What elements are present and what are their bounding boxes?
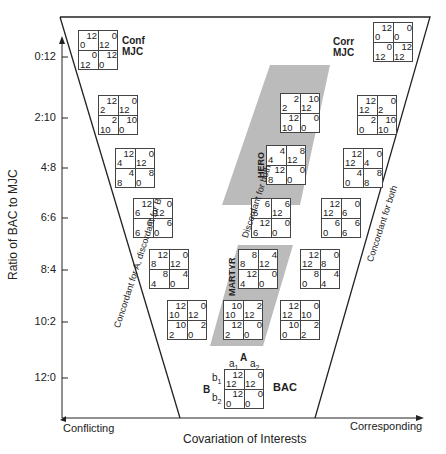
bac-b1-label: b1 — [212, 372, 221, 385]
y-tick: 8:4 — [16, 263, 56, 275]
matrix-martyr-8-4: 88 412 124 00 — [238, 249, 278, 289]
matrix-corr-mjc: 120 00 012 1212 — [373, 22, 413, 62]
corr-mjc-label: CorrMJC — [333, 36, 354, 58]
bac-player-b-label: B — [203, 384, 210, 395]
matrix-left-8-4: 128 012 84 40 — [149, 249, 189, 289]
y-tick: 12:0 — [16, 371, 56, 383]
interdependence-diagram: Ratio of BAC to MJC 0:12 2:10 4:8 6:6 8:… — [0, 0, 446, 454]
y-tick: 10:2 — [16, 315, 56, 327]
bac-player-a-label: A — [240, 352, 247, 363]
matrix-right-4-8: 1212 04 40 88 — [343, 148, 383, 188]
matrix-left-2-10: 122 012 210 100 — [98, 95, 138, 135]
conf-mjc-label: ConfMJC — [122, 35, 145, 57]
matrix-left-10-2: 1210 012 102 20 — [167, 300, 207, 340]
matrix-right-8-4: 1212 08 80 44 — [300, 249, 340, 289]
matrix-conf-mjc: 120 012 012 120 — [78, 30, 118, 70]
y-tick: 0:12 — [16, 50, 56, 62]
matrix-right-6-6: 1212 06 60 66 — [321, 198, 361, 238]
matrix-right-10-2: 1212 010 100 22 — [280, 300, 320, 340]
matrix-bac: 1212 012 120 00 — [224, 369, 264, 409]
matrix-right-2-10: 1212 02 20 1010 — [357, 95, 397, 135]
bac-b2-label: b2 — [212, 392, 221, 405]
matrix-mid-10-2: 1010 212 122 00 — [223, 300, 263, 340]
x-right-label: Corresponding — [350, 420, 422, 432]
y-tick: 2:10 — [16, 111, 56, 123]
x-left-label: Conflicting — [63, 422, 114, 434]
bac-label: BAC — [273, 382, 297, 393]
x-axis-label: Covariation of Interests — [183, 432, 306, 446]
y-tick: 4:8 — [16, 161, 56, 173]
y-tick: 6:6 — [16, 211, 56, 223]
matrix-left-4-8: 124 012 48 80 — [115, 148, 155, 188]
martyr-label: MARTYR — [227, 258, 238, 297]
matrix-mid-2-10: 22 1012 1210 00 — [280, 93, 320, 133]
matrix-hero-4-8: 44 812 128 00 — [266, 145, 306, 185]
